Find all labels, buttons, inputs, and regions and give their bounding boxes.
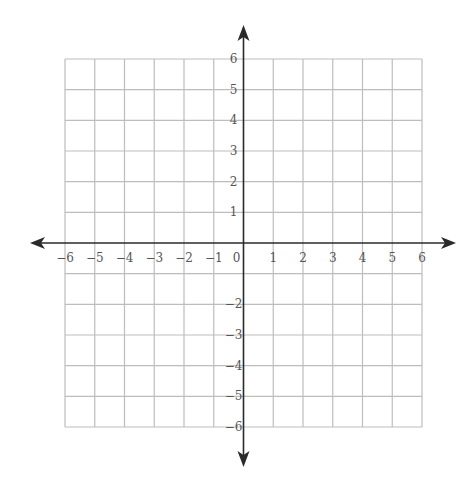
y-tick-label: 1 bbox=[230, 205, 238, 219]
x-tick-label: −6 bbox=[56, 251, 74, 265]
y-tick-label: 2 bbox=[230, 175, 238, 189]
coordinate-plane: −6−5−4−3−2−10123456 654321−2−3−4−5−6 bbox=[0, 0, 469, 499]
x-tick-label: −5 bbox=[86, 251, 104, 265]
y-tick-label: −4 bbox=[225, 359, 243, 373]
x-tick-label: −4 bbox=[116, 251, 134, 265]
x-tick-label: 5 bbox=[388, 251, 396, 265]
y-tick-label: 6 bbox=[230, 52, 238, 66]
x-tick-label: −2 bbox=[175, 251, 193, 265]
x-tick-label: 0 bbox=[233, 251, 241, 265]
x-axis-tick-labels: −6−5−4−3−2−10123456 bbox=[56, 251, 426, 265]
x-tick-label: 2 bbox=[299, 251, 307, 265]
y-tick-label: 4 bbox=[230, 113, 238, 127]
x-tick-label: 4 bbox=[359, 251, 367, 265]
x-tick-label: 6 bbox=[418, 251, 426, 265]
y-tick-label: −5 bbox=[225, 389, 243, 403]
x-tick-label: 1 bbox=[269, 251, 277, 265]
y-tick-label: −2 bbox=[225, 297, 243, 311]
y-tick-label: 5 bbox=[230, 83, 238, 97]
y-tick-label: −6 bbox=[225, 420, 243, 434]
y-tick-label: −3 bbox=[225, 328, 243, 342]
x-tick-label: −1 bbox=[205, 251, 223, 265]
x-tick-label: −3 bbox=[145, 251, 163, 265]
x-tick-label: 3 bbox=[329, 251, 337, 265]
y-tick-label: 3 bbox=[230, 144, 238, 158]
